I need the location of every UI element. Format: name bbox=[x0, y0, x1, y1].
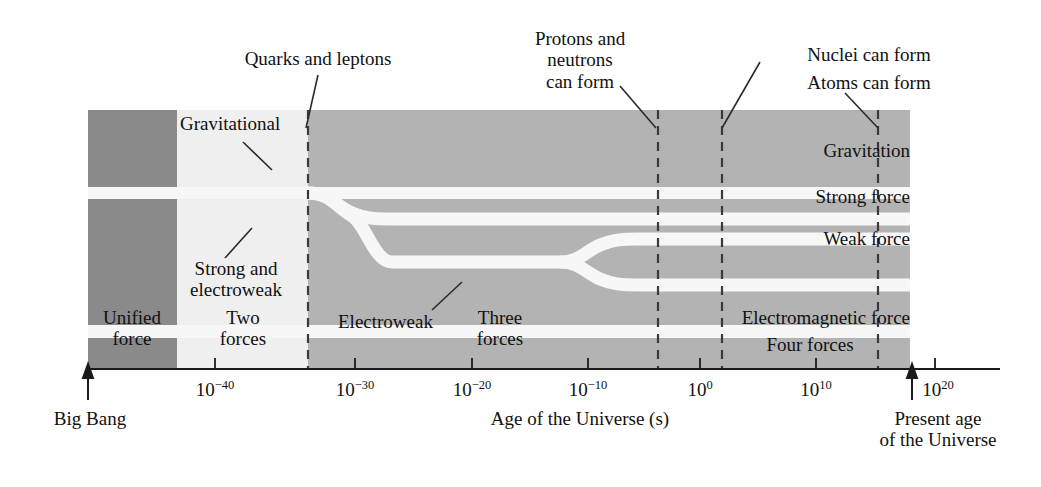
x-tick-exp-1: −30 bbox=[355, 378, 375, 392]
callout-protons-line2: neutrons bbox=[520, 49, 640, 70]
band-label-strong-force-text: Strong force bbox=[816, 186, 910, 207]
x-tick-exp-5: 10 bbox=[819, 378, 832, 392]
region-three-line2: forces bbox=[445, 328, 555, 349]
x-tick-label-2: 10−20 bbox=[453, 378, 492, 401]
region-two-line1: Two bbox=[188, 307, 298, 328]
band-label-four-forces-text: Four forces bbox=[766, 334, 853, 355]
region-label-two-forces: Two forces bbox=[188, 307, 298, 350]
x-tick-base-1: 10 bbox=[336, 379, 355, 400]
x-tick-label-1: 10−30 bbox=[336, 378, 375, 401]
callout-atoms-text: Atoms can form bbox=[807, 72, 930, 93]
callout-quarks-and-leptons: Quarks and leptons bbox=[245, 48, 392, 69]
marker-label-present-age: Present age of the Universe bbox=[853, 408, 1023, 451]
x-tick-exp-4: 0 bbox=[706, 378, 712, 392]
band-label-electromagnetic-force: Electromagnetic force bbox=[600, 307, 910, 328]
x-tick-base-6: 10 bbox=[922, 379, 941, 400]
region-label-three-forces: Three forces bbox=[445, 307, 555, 350]
callout-strong-ew-line2: electroweak bbox=[171, 279, 301, 300]
figure-canvas: Quarks and leptons Protons and neutrons … bbox=[0, 0, 1041, 487]
callout-gravitational-text: Gravitational bbox=[180, 113, 280, 134]
band-label-gravitation-text: Gravitation bbox=[823, 140, 910, 161]
band-label-strong-force: Strong force bbox=[610, 186, 910, 207]
x-tick-exp-0: −40 bbox=[215, 378, 235, 392]
callout-electroweak: Electroweak bbox=[338, 311, 433, 332]
callout-nuclei-text: Nuclei can form bbox=[807, 44, 930, 65]
x-tick-base-0: 10 bbox=[196, 379, 215, 400]
band-label-weak-force-text: Weak force bbox=[823, 228, 910, 249]
callout-quarks-text: Quarks and leptons bbox=[245, 48, 392, 69]
callout-protons-line3: can form bbox=[520, 71, 640, 92]
x-tick-exp-2: −20 bbox=[472, 378, 492, 392]
marker-present-line1: Present age bbox=[853, 408, 1023, 429]
callout-nuclei-can-form: Nuclei can form bbox=[807, 44, 930, 65]
callout-protons-and-neutrons: Protons and neutrons can form bbox=[520, 28, 640, 92]
callout-atoms-can-form: Atoms can form bbox=[807, 72, 930, 93]
x-tick-label-0: 10−40 bbox=[196, 378, 235, 401]
x-tick-label-6: 1020 bbox=[922, 378, 954, 401]
callout-strong-and-electroweak: Strong and electroweak bbox=[171, 258, 301, 301]
x-tick-base-5: 10 bbox=[800, 379, 819, 400]
band-label-weak-force: Weak force bbox=[610, 228, 910, 249]
x-tick-exp-6: 20 bbox=[941, 378, 954, 392]
x-tick-base-2: 10 bbox=[453, 379, 472, 400]
band-label-gravitation: Gravitation bbox=[610, 140, 910, 161]
callout-strong-ew-line1: Strong and bbox=[171, 258, 301, 279]
x-tick-exp-3: −10 bbox=[588, 378, 608, 392]
x-tick-label-5: 1010 bbox=[800, 378, 832, 401]
x-axis-title-text: Age of the Universe (s) bbox=[491, 408, 669, 429]
x-tick-base-3: 10 bbox=[569, 379, 588, 400]
region-three-line1: Three bbox=[445, 307, 555, 328]
x-axis-title: Age of the Universe (s) bbox=[491, 408, 669, 429]
callout-electroweak-text: Electroweak bbox=[338, 311, 433, 332]
marker-label-big-bang: Big Bang bbox=[54, 408, 126, 429]
band-label-four-forces: Four forces bbox=[766, 334, 853, 355]
x-tick-label-3: 10−10 bbox=[569, 378, 608, 401]
x-tick-label-4: 100 bbox=[687, 378, 712, 401]
region-unified-line2: force bbox=[77, 328, 187, 349]
marker-big-bang-text: Big Bang bbox=[54, 408, 126, 429]
marker-present-line2: of the Universe bbox=[853, 429, 1023, 450]
x-tick-base-4: 10 bbox=[687, 379, 706, 400]
region-unified-line1: Unified bbox=[77, 307, 187, 328]
unified-block-top bbox=[88, 110, 177, 187]
callout-protons-line1: Protons and bbox=[520, 28, 640, 49]
band-label-em-force-text: Electromagnetic force bbox=[742, 307, 910, 328]
region-label-unified-force: Unified force bbox=[77, 307, 187, 350]
callout-gravitational: Gravitational bbox=[180, 113, 280, 134]
region-two-line2: forces bbox=[188, 328, 298, 349]
